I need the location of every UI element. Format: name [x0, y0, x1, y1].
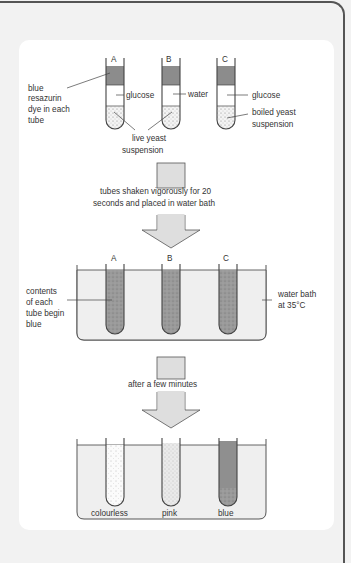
result-b: pink [162, 509, 178, 518]
live-label-line1: live yeast [132, 134, 167, 143]
step1-line1: tubes shaken vigorously for 20 [100, 187, 211, 196]
contents-label-line3: tube begin [26, 309, 65, 318]
contents-label-line4: blue [26, 320, 42, 329]
stage1-label-b: B [166, 55, 172, 64]
dye-label-line1: blue [28, 84, 44, 93]
boiled-label-line2: suspension [252, 120, 294, 129]
water-label: water [187, 90, 208, 99]
glucose-label-a: glucose [126, 91, 155, 100]
dye-label-line3: dye in each [28, 105, 70, 114]
stage1-tubes [67, 58, 248, 130]
step2-label: after a few minutes [128, 380, 197, 389]
stage2-label-b: B [167, 254, 173, 263]
bath-label-line1: water bath [277, 290, 317, 299]
contents-label-line2: of each [26, 298, 53, 307]
result-c: blue [218, 509, 234, 518]
dye-label-line4: tube [28, 116, 44, 125]
live-label-line2: suspension [122, 146, 164, 155]
bath-label-line2: at 35°C [278, 301, 305, 310]
stage2-label-a: A [111, 254, 117, 263]
boiled-label-line1: boiled yeast [252, 108, 296, 117]
dye-label-line2: resazurin [28, 94, 62, 103]
tube-b [162, 58, 180, 129]
result-a: colourless [91, 509, 128, 518]
arrow-2 [142, 357, 200, 428]
tube-c [217, 58, 235, 129]
contents-label-line1: contents [26, 287, 57, 296]
glucose-label-c: glucose [252, 91, 281, 100]
stage2-label-c: C [223, 254, 229, 263]
stage1-label-a: A [111, 55, 117, 64]
stage1-label-c: C [222, 55, 228, 64]
step1-line2: seconds and placed in water bath [93, 199, 215, 208]
